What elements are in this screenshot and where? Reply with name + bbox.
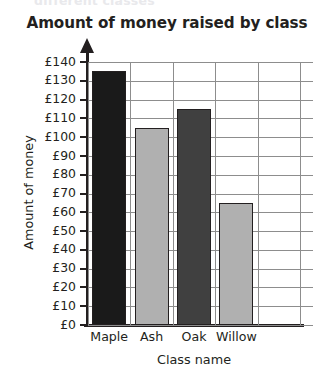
y-axis-tick-label: £80 [30,168,76,180]
grid-tick-extension [300,306,313,307]
grid-tick-extension [300,118,313,119]
y-axis-tick-label: £120 [30,93,76,105]
grid-tick-extension [300,62,313,63]
y-axis-tick-label: £110 [30,112,76,124]
y-axis-tick-mark [80,117,87,119]
grid-tick-extension [300,212,313,213]
y-axis-tick-label: £140 [30,56,76,68]
grid-tick-extension [300,231,313,232]
y-axis-tick-mark [80,249,87,251]
y-axis-tick-mark [80,174,87,176]
grid-tick-extension [300,250,313,251]
y-axis-tick-mark [80,193,87,195]
gridline-vertical [88,62,89,325]
y-axis-tick-label: £40 [30,243,76,255]
y-axis-tick-label: £0 [30,319,76,331]
y-axis-tick-label: £30 [30,262,76,274]
y-axis-tick-mark [80,211,87,213]
y-axis-tick-label: £10 [30,300,76,312]
y-axis-tick-mark [80,61,87,63]
y-axis-tick-mark [80,155,87,157]
y-axis-tick-mark [80,268,87,270]
y-axis-tick-mark [80,99,87,101]
y-axis-tick-mark [80,80,87,82]
bar-ash [135,128,169,325]
y-axis-tick-mark [80,324,87,326]
cut-off-caption: different classes [34,0,274,5]
x-axis-tick-label: Oak [173,330,215,344]
chart-title: Amount of money raised by class [0,14,334,32]
grid-tick-extension [300,81,313,82]
gridline-vertical [215,62,216,325]
y-axis-tick-label: £130 [30,74,76,86]
gridline-vertical [130,62,131,325]
y-axis-tick-label: £90 [30,150,76,162]
y-axis-tick-label: £100 [30,131,76,143]
y-axis-tick-label: £20 [30,281,76,293]
x-axis-tick-label: Willow [215,330,257,344]
grid-tick-extension [300,156,313,157]
bar-maple [92,71,126,325]
y-axis-tick-mark [80,286,87,288]
y-axis-tick-mark [80,230,87,232]
grid-tick-extension [300,100,313,101]
x-axis-tick-label: Ash [130,330,172,344]
y-axis-arrow-icon [80,38,94,53]
bar-oak [177,109,211,325]
grid-tick-extension [300,137,313,138]
grid-tick-extension [300,269,313,270]
gridline-horizontal [88,62,300,63]
x-axis-tick-label: Maple [88,330,130,344]
gridline-vertical [258,62,259,325]
bar-willow [219,203,253,325]
grid-tick-extension [300,175,313,176]
y-axis-tick-mark [80,136,87,138]
gridline-horizontal [88,325,300,326]
grid-tick-extension [300,287,313,288]
grid-tick-extension [300,194,313,195]
x-axis-title: Class name [88,352,300,367]
gridline-vertical [173,62,174,325]
y-axis-tick-mark [80,305,87,307]
y-axis-tick-label: £60 [30,206,76,218]
y-axis-tick-label: £70 [30,187,76,199]
y-axis-tick-label: £50 [30,225,76,237]
grid-tick-extension [300,325,313,326]
y-axis-title: Amount of money [21,93,36,293]
